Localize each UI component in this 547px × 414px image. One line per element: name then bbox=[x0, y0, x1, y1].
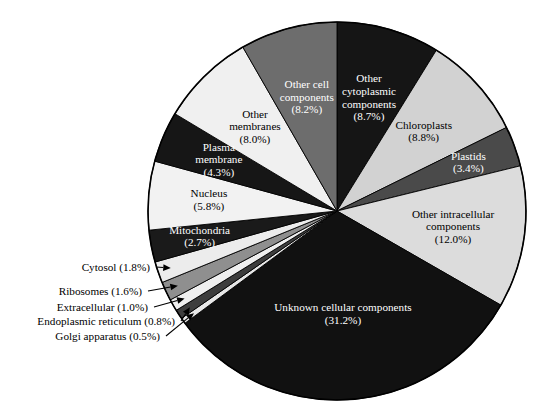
pie-slice-label-line: (8.2%) bbox=[291, 103, 322, 116]
pie-slice-label-line: (8.0%) bbox=[240, 133, 271, 146]
pie-slice-label-line: Other bbox=[356, 72, 382, 84]
pie-slice-label-line: Unknown cellular components bbox=[274, 301, 411, 313]
pie-callout-label: Ribosomes (1.6%) bbox=[59, 285, 143, 298]
pie-slice-label-line: Other intracellular bbox=[412, 207, 495, 219]
pie-slice-label-line: Nucleus bbox=[191, 187, 228, 199]
pie-callout-label: Golgi apparatus (0.5%) bbox=[55, 330, 160, 343]
pie-slice-label-line: Plastids bbox=[451, 149, 486, 161]
pie-slice-label-line: components bbox=[280, 90, 334, 102]
pie-callout-label: Endoplasmic reticulum (0.8%) bbox=[37, 315, 175, 328]
pie-slice-label-line: (12.0%) bbox=[435, 233, 472, 246]
pie-slice-label-line: (4.3%) bbox=[203, 166, 234, 179]
pie-slice-label: Plastids(3.4%) bbox=[451, 149, 486, 175]
pie-callout-label: Extracellular (1.0%) bbox=[57, 301, 149, 314]
pie-slice-label-line: (2.7%) bbox=[184, 236, 215, 249]
pie-slice-label-line: Mitochondria bbox=[169, 223, 230, 235]
pie-slice-label: Nucleus(5.8%) bbox=[191, 187, 228, 213]
pie-slice-label-line: Chloroplasts bbox=[395, 118, 452, 130]
pie-slice-label-line: (31.2%) bbox=[325, 314, 362, 327]
pie-slice-label-line: (3.4%) bbox=[453, 162, 484, 175]
pie-chart-svg: Othercytoplasmiccomponents(8.7%)Chloropl… bbox=[0, 0, 547, 414]
pie-slice-label-line: membranes bbox=[229, 120, 281, 132]
pie-slice-label-line: Plasma bbox=[203, 140, 235, 152]
pie-slice-label-line: components bbox=[426, 220, 480, 232]
pie-slice-label-line: (5.8%) bbox=[194, 199, 225, 212]
pie-callout-label: Cytosol (1.8%) bbox=[82, 261, 151, 274]
pie-slice-label-line: components bbox=[342, 97, 396, 109]
pie-slice-label-line: Other bbox=[242, 107, 268, 119]
pie-callout-leader-line bbox=[156, 267, 163, 268]
pie-slice-label-line: Other cell bbox=[285, 78, 329, 90]
pie-slice-label-line: (8.7%) bbox=[354, 110, 385, 123]
pie-chart-figure: Othercytoplasmiccomponents(8.7%)Chloropl… bbox=[0, 0, 547, 414]
pie-slice-label-line: membrane bbox=[195, 153, 242, 165]
pie-slice-label-line: cytoplasmic bbox=[342, 85, 396, 97]
pie-slice-label-line: (8.8%) bbox=[408, 131, 439, 144]
